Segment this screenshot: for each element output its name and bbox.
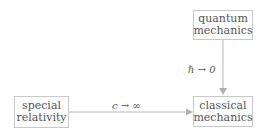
edge-label-c-limit: c → ∞ — [112, 100, 141, 111]
node-special-relativity: special relativity — [14, 96, 69, 128]
node-label-line2: relativity — [16, 112, 66, 124]
node-quantum-mechanics: quantum mechanics — [193, 10, 253, 40]
node-label-line2: mechanics — [193, 25, 252, 37]
node-label-line2: mechanics — [193, 112, 252, 124]
arrowhead-down-icon — [219, 88, 227, 95]
node-label-line1: classical — [199, 100, 246, 112]
arrowhead-right-icon — [186, 109, 193, 116]
edge-label-hbar-limit: ℏ → 0 — [188, 64, 216, 75]
node-classical-mechanics: classical mechanics — [193, 96, 253, 127]
